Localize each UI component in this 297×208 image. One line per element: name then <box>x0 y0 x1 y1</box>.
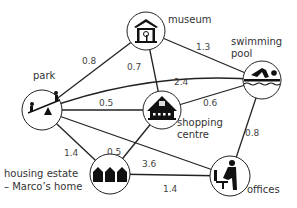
housing-label-1: housing estate <box>4 168 78 179</box>
weight-pool-offices: 0.8 <box>245 128 260 138</box>
network-diagram: 0.8 1.3 0.7 2.4 0.5 0.6 1.4 3.6 0.5 1.4 … <box>0 0 297 208</box>
node-swimming-pool: swimming pool <box>231 36 282 99</box>
shopping-label-2: centre <box>177 129 209 140</box>
pool-label-2: pool <box>231 48 252 59</box>
weight-park-offices: 3.6 <box>142 159 157 169</box>
weight-park-housing: 1.4 <box>64 148 79 158</box>
weight-park-pool: 2.4 <box>174 77 189 87</box>
houses-icon <box>93 167 127 182</box>
shopping-label-1: shopping <box>177 117 223 128</box>
weight-housing-offices: 1.4 <box>163 184 178 194</box>
park-label: park <box>33 70 56 81</box>
weight-shopping-pool: 0.6 <box>203 98 218 108</box>
node-park: park <box>22 70 62 130</box>
weight-park-shopping: 0.5 <box>99 98 113 108</box>
museum-label: museum <box>168 14 212 25</box>
weight-museum-pool: 1.3 <box>196 42 210 52</box>
weight-park-museum: 0.8 <box>82 56 97 66</box>
housing-label-2: – Marco’s home <box>4 181 82 192</box>
offices-label: offices <box>247 184 280 195</box>
weight-museum-shopping: 0.7 <box>127 62 141 72</box>
pool-label-1: swimming <box>231 36 282 47</box>
node-offices: offices <box>210 156 280 196</box>
node-housing-estate: housing estate – Marco’s home <box>4 154 130 194</box>
